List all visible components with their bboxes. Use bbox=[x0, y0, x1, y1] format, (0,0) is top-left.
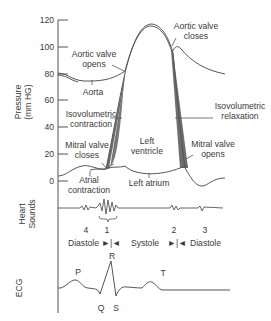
ecg-trace bbox=[58, 261, 230, 296]
label-isovolumetric-relaxation-1: Isovolumetric bbox=[215, 101, 266, 111]
ecg-wave-s: S bbox=[113, 303, 119, 313]
wiggers-diagram: 120 100 80 60 40 20 0 Pressure (mm HG) bbox=[0, 0, 271, 321]
label-mitral-valve-opens-2: opens bbox=[201, 149, 224, 159]
label-aortic-valve-opens-1: Aortic valve bbox=[72, 49, 117, 59]
ecg-section: ECG P Q R S T bbox=[14, 251, 230, 313]
ecg-wave-p: P bbox=[75, 267, 81, 277]
label-left-ventricle-1: Left bbox=[140, 136, 155, 146]
label-mitral-valve-opens-1: Mitral valve bbox=[191, 139, 235, 149]
left-atrium-pressure-curve bbox=[58, 166, 188, 176]
heart-sound-1: 1 bbox=[105, 225, 110, 235]
label-aortic-valve-closes-1: Aortic valve bbox=[174, 21, 219, 31]
label-isovolumetric-contraction-2: contraction bbox=[70, 119, 112, 129]
pressure-axis-label: Pressure bbox=[13, 85, 23, 120]
heart-sounds-section: Heart Sounds 4 1 2 3 Diastole ►|◄ Systol… bbox=[17, 199, 223, 248]
label-isovolumetric-relaxation-2: relaxation bbox=[221, 111, 258, 121]
tick-0: 0 bbox=[49, 176, 54, 186]
phase-boundary-arrows-1: ►|◄ bbox=[101, 238, 120, 248]
label-aorta: Aorta bbox=[83, 87, 104, 97]
label-atrial-contraction-1: Atrial bbox=[79, 175, 99, 185]
phase-boundary-arrows-2: ►|◄ bbox=[167, 238, 186, 248]
label-left-ventricle-2: ventricle bbox=[131, 146, 163, 156]
label-atrial-contraction-2: contraction bbox=[68, 185, 110, 195]
label-left-atrium: Left atrium bbox=[129, 178, 170, 188]
ecg-wave-r: R bbox=[109, 251, 115, 261]
phase-systole: Systole bbox=[131, 238, 159, 248]
tick-20: 20 bbox=[44, 149, 54, 159]
label-mitral-valve-closes-2: closes bbox=[75, 150, 99, 160]
heart-sound-2: 2 bbox=[172, 225, 177, 235]
tick-100: 100 bbox=[40, 42, 55, 52]
label-isovolumetric-contraction-1: Isovolumetric bbox=[66, 109, 117, 119]
ecg-wave-q: Q bbox=[98, 303, 105, 313]
pressure-axis: 120 100 80 60 40 20 0 Pressure (mm HG) bbox=[13, 15, 68, 313]
ecg-wave-t: T bbox=[160, 268, 166, 278]
tick-120: 120 bbox=[40, 15, 55, 25]
phonocardiogram-trace bbox=[58, 199, 223, 214]
tick-60: 60 bbox=[44, 95, 54, 105]
heart-sounds-label-2: Sounds bbox=[27, 199, 37, 228]
label-mitral-valve-closes-1: Mitral valve bbox=[65, 140, 109, 150]
ecg-label: ECG bbox=[14, 278, 24, 297]
heart-sound-3: 3 bbox=[203, 225, 208, 235]
label-aortic-valve-closes-2: closes bbox=[184, 31, 208, 41]
phase-diastole-right: Diastole bbox=[190, 238, 221, 248]
label-aortic-valve-opens-2: opens bbox=[82, 59, 105, 69]
heart-sounds-label-1: Heart bbox=[17, 203, 27, 225]
phase-diastole-left: Diastole bbox=[68, 238, 99, 248]
tick-40: 40 bbox=[44, 122, 54, 132]
tick-80: 80 bbox=[44, 69, 54, 79]
pressure-axis-unit: (mm HG) bbox=[23, 84, 33, 119]
heart-sound-4: 4 bbox=[84, 225, 89, 235]
